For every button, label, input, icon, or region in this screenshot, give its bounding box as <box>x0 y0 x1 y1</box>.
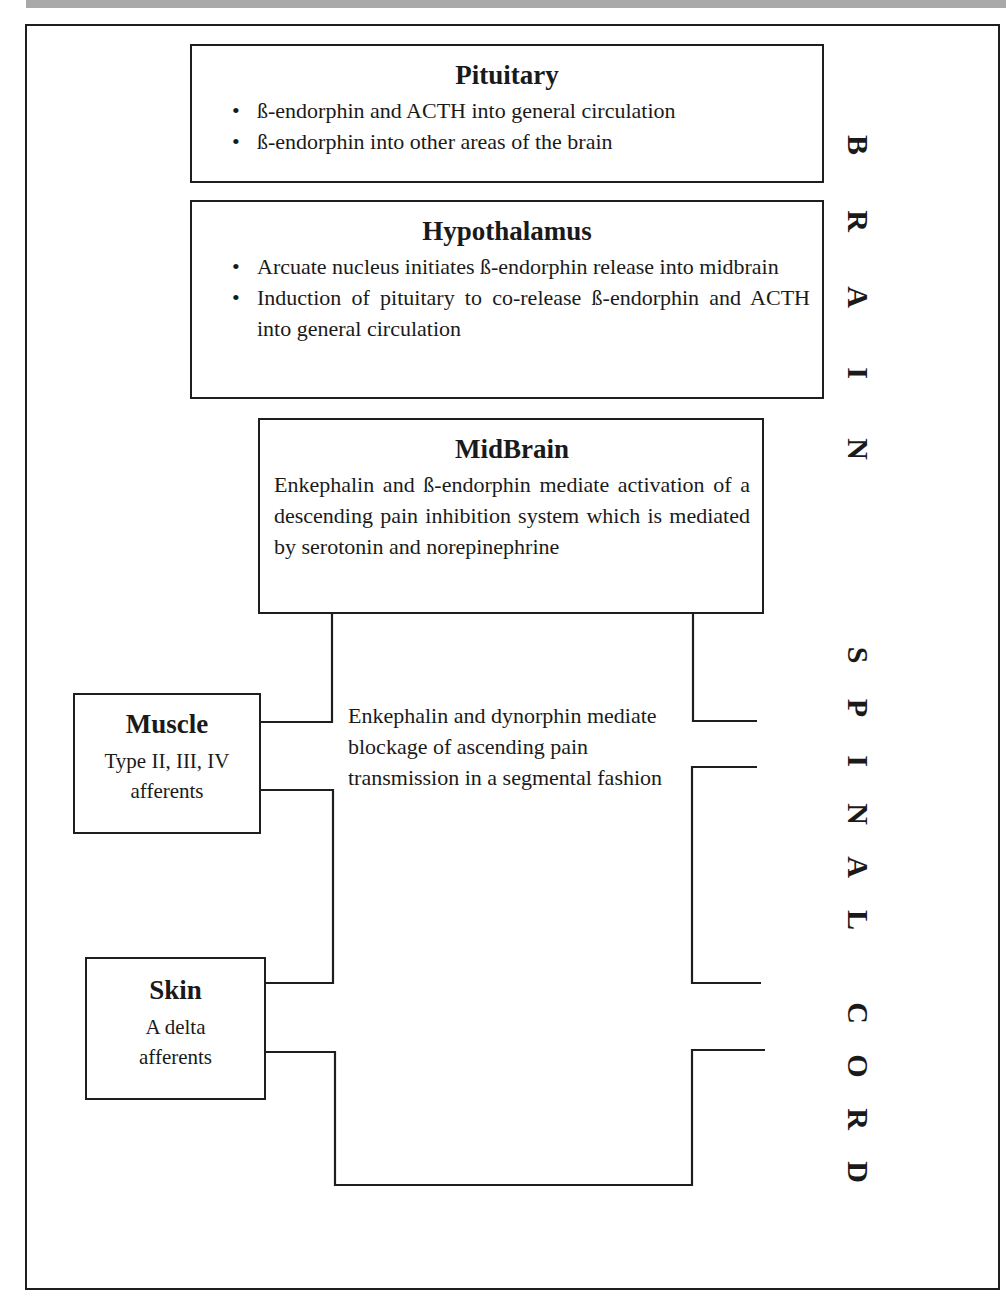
spinal-letter: L <box>843 905 873 935</box>
brain-letter: R <box>843 206 873 236</box>
spinal-letter: P <box>843 693 873 723</box>
spinal-letter: O <box>843 1051 873 1081</box>
spinal-letter: C <box>843 998 873 1028</box>
connector-right-bracket <box>692 767 761 983</box>
connector-midbrain-muscle <box>261 613 332 722</box>
brain-letter: N <box>843 434 873 464</box>
brain-letter: B <box>843 130 873 160</box>
spinal-letter: I <box>843 746 873 776</box>
connector-midbrain-right <box>693 613 757 721</box>
spinal-letter: R <box>843 1104 873 1134</box>
connector-muscle-skin <box>261 790 333 983</box>
connector-skin-loop <box>266 1050 765 1185</box>
spinal-letter: S <box>843 640 873 670</box>
brain-letter: A <box>843 282 873 312</box>
spinal-letter: N <box>843 799 873 829</box>
brain-letter: I <box>843 358 873 388</box>
spinal-letter: D <box>843 1157 873 1187</box>
spinal-cord-vertical-label: S P I N A L C O R D <box>843 640 873 1210</box>
spinal-letter: A <box>843 852 873 882</box>
brain-vertical-label: B R A I N <box>843 130 873 510</box>
